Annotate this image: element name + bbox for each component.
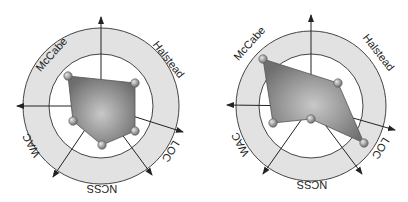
- vertex-marker-ncss: [307, 115, 315, 123]
- vertex-marker-loc: [131, 127, 139, 135]
- radar-chart-right-svg: McCabeHalsteadLOCNCSSWAC: [204, 0, 408, 202]
- radar-chart-left: McCabeHalsteadLOCNCSSWAC: [0, 0, 204, 202]
- vertex-marker-ncss: [98, 141, 106, 149]
- radar-chart-right: McCabeHalsteadLOCNCSSWAC: [204, 0, 408, 202]
- vertex-marker-wac: [69, 117, 77, 125]
- axis-label-ncss: NCSS: [87, 183, 118, 195]
- vertex-marker-mccabe: [64, 72, 72, 80]
- vertex-marker-wac: [269, 119, 277, 127]
- radar-chart-left-svg: McCabeHalsteadLOCNCSSWAC: [0, 0, 204, 202]
- vertex-marker-loc: [360, 139, 368, 147]
- vertex-marker-mccabe: [259, 55, 267, 63]
- vertex-marker-halstead: [334, 79, 342, 87]
- vertex-marker-halstead: [131, 79, 139, 87]
- axis-label-ncss: NCSS: [297, 179, 328, 191]
